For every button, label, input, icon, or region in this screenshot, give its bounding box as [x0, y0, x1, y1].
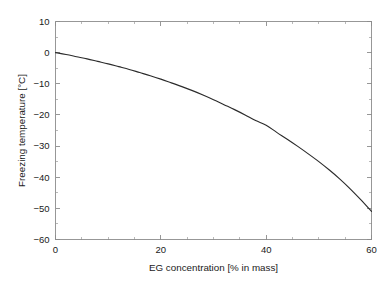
y-tick-label: −10 [33, 78, 49, 89]
x-tick-label: 40 [261, 244, 272, 255]
x-tick-label: 60 [366, 244, 377, 255]
y-tick-label: −40 [33, 172, 49, 183]
chart-figure: 0204060 100−10−20−30−40−50−60 EG concent… [0, 0, 389, 282]
x-axis-title: EG concentration [% in mass] [149, 262, 278, 273]
x-tick-label: 0 [53, 244, 58, 255]
y-tick-label: 0 [44, 47, 49, 58]
y-tick-label: 10 [39, 16, 50, 27]
y-tick-label: −50 [33, 203, 49, 214]
x-tick-label: 20 [156, 244, 167, 255]
y-axis-title: Freezing temperature [°C] [16, 74, 27, 187]
y-tick-label: −30 [33, 140, 49, 151]
y-tick-label: −20 [33, 109, 49, 120]
freezing-temperature-line-chart: 0204060 100−10−20−30−40−50−60 EG concent… [0, 0, 389, 282]
y-tick-label: −60 [33, 234, 49, 245]
